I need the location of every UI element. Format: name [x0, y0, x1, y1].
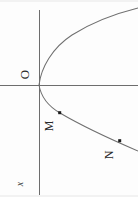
origin-label: O [18, 70, 31, 79]
point-n-label: N [103, 151, 115, 160]
parabola-figure: O M N x [0, 0, 138, 197]
point-m-dot [58, 111, 61, 114]
point-n-dot [118, 139, 121, 142]
parabola-lower-branch [39, 85, 138, 151]
parabola-upper-branch [39, 8, 138, 85]
x-axis-label: x [15, 182, 25, 186]
figure-canvas [0, 0, 138, 197]
point-m-label: M [43, 121, 55, 132]
